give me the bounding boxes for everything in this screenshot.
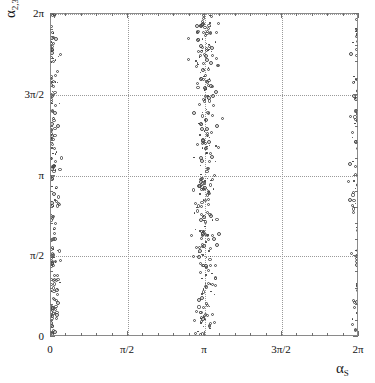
scatter-point	[202, 147, 204, 149]
scatter-point	[59, 53, 62, 56]
y-tick-label: π/2	[0, 250, 44, 261]
scatter-point	[202, 290, 205, 293]
scatter-point	[353, 115, 356, 118]
scatter-point	[53, 147, 56, 150]
y-tick	[50, 320, 53, 321]
scatter-point	[215, 31, 218, 34]
scatter-point	[57, 195, 60, 198]
x-tick	[158, 13, 159, 16]
x-tick-label: 3π/2	[271, 344, 291, 355]
x-tick	[250, 13, 251, 16]
scatter-point	[193, 319, 196, 322]
x-tick	[127, 331, 128, 336]
y-tick	[353, 13, 358, 14]
scatter-point	[205, 241, 207, 243]
scatter-point	[213, 188, 215, 190]
scatter-point	[210, 131, 213, 134]
x-tick	[204, 13, 205, 18]
x-tick-label: 0	[47, 344, 53, 355]
scatter-point	[357, 58, 358, 61]
scatter-point	[206, 257, 208, 259]
scatter-point	[187, 37, 190, 40]
scatter-point	[55, 169, 57, 171]
scatter-point	[356, 312, 358, 314]
scatter-point	[50, 218, 53, 221]
y-tick	[50, 110, 53, 111]
scatter-point	[205, 170, 208, 173]
scatter-point	[204, 233, 207, 236]
scatter-point	[352, 207, 355, 210]
y-tick	[50, 223, 53, 224]
x-tick	[204, 331, 205, 336]
y-tick	[355, 78, 358, 79]
scatter-point	[194, 212, 196, 214]
y-tick	[50, 271, 53, 272]
scatter-point	[52, 119, 55, 122]
scatter-point	[52, 264, 55, 267]
x-tick	[343, 333, 344, 336]
scatter-point	[357, 226, 358, 229]
x-tick	[235, 13, 236, 16]
scatter-point	[221, 117, 224, 120]
y-tick	[353, 94, 358, 95]
scatter-point	[356, 147, 358, 150]
scatter-point	[202, 112, 204, 114]
x-tick	[158, 333, 159, 336]
x-tick	[296, 13, 297, 16]
scatter-point	[52, 36, 55, 39]
scatter-point	[217, 146, 220, 149]
scatter-point	[51, 137, 53, 139]
scatter-point	[215, 124, 219, 128]
scatter-point	[202, 38, 204, 40]
x-tick	[81, 13, 82, 16]
scatter-point	[209, 247, 212, 250]
scatter-point	[357, 83, 358, 86]
scatter-point	[55, 153, 57, 155]
scatter-point	[357, 73, 358, 75]
scatter-point	[59, 103, 61, 105]
scatter-point	[211, 273, 213, 275]
scatter-point	[58, 203, 61, 206]
y-tick	[353, 175, 358, 176]
scatter-point	[54, 74, 57, 77]
x-tick	[189, 13, 190, 16]
scatter-point	[198, 103, 201, 106]
scatter-point	[206, 80, 209, 83]
scatter-point	[197, 255, 201, 259]
scatter-point	[204, 34, 207, 37]
y-tick	[50, 29, 53, 30]
scatter-point	[352, 161, 354, 163]
scatter-point	[200, 165, 202, 167]
scatter-point	[200, 159, 204, 163]
scatter-point	[357, 20, 359, 24]
y-tick	[50, 239, 53, 240]
scatter-point	[217, 22, 220, 25]
scatter-point	[60, 156, 63, 159]
scatter-point	[210, 15, 213, 18]
scatter-point	[55, 188, 57, 190]
x-tick	[312, 13, 313, 16]
scatter-point	[348, 162, 352, 166]
scatter-point	[51, 177, 54, 180]
scatter-point	[209, 183, 212, 186]
y-tick	[50, 191, 53, 192]
scatter-point	[202, 215, 206, 219]
scatter-point	[206, 43, 208, 45]
scatter-point	[355, 263, 358, 267]
scatter-point	[202, 244, 206, 248]
scatter-point	[195, 229, 197, 231]
y-tick	[355, 61, 358, 62]
scatter-point	[207, 178, 209, 180]
scatter-point	[53, 248, 55, 250]
scatter-point	[196, 82, 199, 85]
scatter-point	[207, 68, 210, 71]
scatter-point	[351, 323, 354, 326]
scatter-point	[206, 193, 209, 196]
y-tick	[353, 255, 358, 256]
scatter-point	[208, 324, 211, 327]
scatter-point	[51, 215, 54, 218]
scatter-point	[349, 52, 353, 56]
scatter-point	[357, 273, 358, 276]
scatter-point	[209, 264, 212, 267]
scatter-point	[54, 160, 57, 163]
